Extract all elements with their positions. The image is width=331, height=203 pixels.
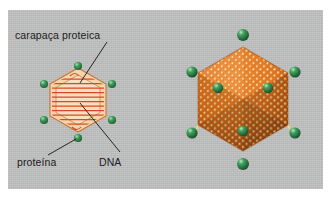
figure-root: carapaça proteica proteína DNA bbox=[0, 0, 331, 203]
label-dna: DNA bbox=[99, 156, 121, 168]
label-capsid-proteica: carapaça proteica bbox=[15, 29, 100, 41]
label-proteina: proteína bbox=[17, 156, 56, 168]
